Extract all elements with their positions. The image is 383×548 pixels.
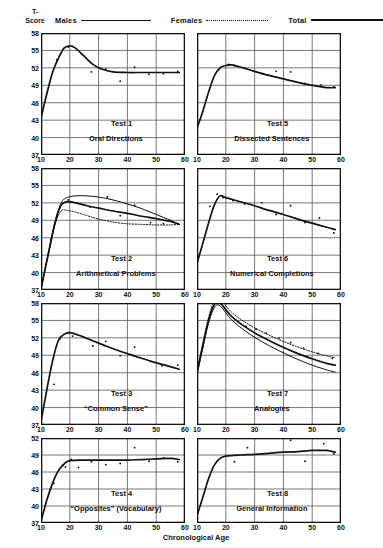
series-group (41, 46, 179, 124)
line-thick-icon (311, 19, 383, 21)
data-point (134, 346, 136, 348)
chart-panel-test2: 5855524946434037102030405060Test 2Arithm… (41, 168, 185, 290)
y-tick-label: 52 (25, 64, 39, 71)
data-point (92, 345, 94, 347)
chart-subtitle-test3: “Common Sense” (84, 404, 148, 413)
data-point (119, 215, 121, 217)
line-dotted-icon (206, 20, 268, 21)
y-tick-label: 43 (25, 387, 39, 394)
chart-subtitle-test4: “Opposites” (Vocabulary) (70, 504, 161, 513)
y-tick-label: 40 (25, 503, 39, 510)
data-point (148, 460, 150, 462)
y-tick-label: 52 (25, 199, 39, 206)
y-tick-label: 49 (25, 352, 39, 359)
chart-subtitle-test1: Oral Directions (89, 134, 143, 143)
y-tick-label: 52 (25, 334, 39, 341)
x-tick-label: 20 (219, 524, 233, 531)
data-point (72, 335, 74, 337)
data-point (89, 206, 91, 208)
data-point (216, 193, 218, 195)
chart-title-test8: Test 8 (267, 489, 288, 498)
data-point (222, 197, 224, 199)
data-point (134, 66, 136, 68)
x-tick-label: 20 (219, 426, 233, 433)
data-point (119, 355, 121, 357)
y-tick-label: 46 (25, 469, 39, 476)
x-tick-label: 40 (276, 156, 290, 163)
x-tick-label: 60 (334, 291, 348, 298)
chart-title-test6: Test 6 (267, 254, 288, 263)
data-point (148, 73, 150, 75)
y-tick-label: 52 (25, 435, 39, 442)
data-point (105, 68, 107, 70)
y-tick-label: 58 (25, 165, 39, 172)
legend-item-males: Males (55, 16, 151, 25)
data-point (245, 325, 247, 327)
chart-subtitle-test5: Dissected Sentences (234, 134, 309, 143)
data-point (261, 202, 263, 204)
data-point (177, 223, 179, 225)
legend-item-females: Females (171, 16, 268, 25)
x-tick-label: 10 (190, 524, 204, 531)
y-tick-label: 55 (25, 182, 39, 189)
x-tick-label: 30 (92, 524, 106, 531)
data-point (105, 340, 107, 342)
series-line-total (41, 46, 179, 118)
x-tick-label: 60 (334, 426, 348, 433)
data-point (134, 204, 136, 206)
data-point (290, 342, 292, 344)
data-point (162, 457, 164, 459)
x-tick-label: 40 (120, 524, 134, 531)
x-tick-label: 10 (190, 156, 204, 163)
data-point (161, 365, 163, 367)
y-tick-label: 46 (25, 234, 39, 241)
legend-label-females: Females (171, 16, 202, 25)
data-point (67, 46, 69, 48)
x-tick-label: 50 (149, 524, 163, 531)
y-tick-label: 40 (25, 404, 39, 411)
x-tick-label: 40 (120, 291, 134, 298)
y-axis-title-line2: Score (18, 17, 52, 26)
chart-panel-test3: 5855524946434037102030405060Test 3“Commo… (41, 303, 185, 425)
y-tick-label: 49 (25, 217, 39, 224)
x-tick-label: 10 (34, 291, 48, 298)
y-axis-title: T- Score (18, 8, 52, 25)
data-point (320, 84, 322, 86)
y-tick-label: 55 (25, 317, 39, 324)
chart-panel-test8: 102030405060Test 8General Information (197, 438, 341, 523)
x-tick-label: 10 (190, 291, 204, 298)
data-point (177, 364, 179, 366)
x-tick-label: 60 (334, 524, 348, 531)
x-tick-label: 30 (248, 426, 262, 433)
data-point (331, 357, 333, 359)
data-point (246, 447, 248, 449)
chart-panel-test7: 102030405060Test 7Analogies (197, 303, 341, 425)
x-axis-title: Chronological Age (163, 533, 229, 542)
data-point (53, 383, 55, 385)
x-tick-label: 50 (149, 156, 163, 163)
y-tick-label: 58 (25, 30, 39, 37)
data-point (149, 222, 151, 224)
x-tick-label: 40 (120, 156, 134, 163)
chart-title-test2: Test 2 (111, 254, 132, 263)
data-point (323, 443, 325, 445)
data-point (317, 353, 319, 355)
series-group (197, 303, 335, 375)
data-point (244, 203, 246, 205)
data-point (162, 73, 164, 75)
data-point (162, 223, 164, 225)
data-point (56, 59, 58, 61)
line-solid-icon (81, 20, 151, 21)
data-point (90, 71, 92, 73)
data-point (333, 86, 335, 88)
x-tick-label: 10 (34, 524, 48, 531)
legend-label-total: Total (288, 16, 306, 25)
data-point (65, 466, 67, 468)
data-point (304, 83, 306, 85)
data-point (218, 69, 220, 71)
y-tick-label: 40 (25, 269, 39, 276)
y-tick-label: 55 (25, 47, 39, 54)
data-point (177, 70, 179, 72)
data-point (53, 482, 55, 484)
